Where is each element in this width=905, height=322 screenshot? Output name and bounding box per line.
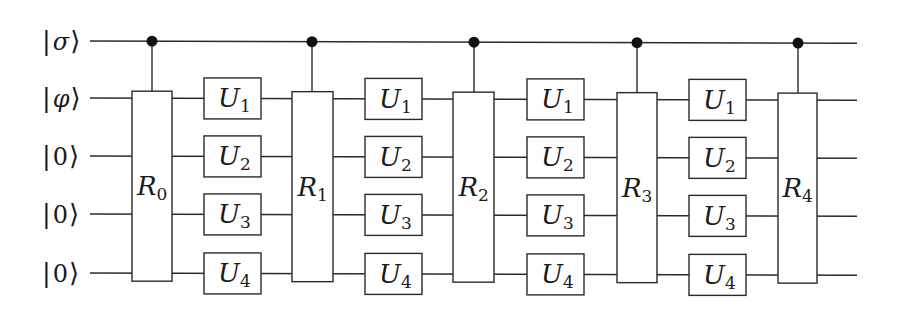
gate-subscript: 2 xyxy=(563,155,574,175)
qubit-label-2: |0⟩ xyxy=(42,141,79,171)
gate-name: U xyxy=(218,199,241,229)
gate-name: U xyxy=(541,84,564,114)
gate-subscript: 1 xyxy=(240,96,251,116)
ket-bar: | xyxy=(42,199,51,229)
gate-name: U xyxy=(541,142,564,172)
gate-subscript: 4 xyxy=(725,273,736,293)
gate-subscript: 1 xyxy=(401,97,412,117)
gate-subscript: 3 xyxy=(642,186,653,206)
gate-name: U xyxy=(379,200,402,230)
gate-subscript: 4 xyxy=(240,271,251,291)
gate-subscript: 1 xyxy=(725,98,736,118)
gate-name: U xyxy=(379,259,402,289)
gate-subscript: 3 xyxy=(401,213,412,233)
gate-subscript: 4 xyxy=(802,186,813,206)
ket-symbol: 0 xyxy=(53,201,68,229)
circuit-svg: |σ⟩|φ⟩|0⟩|0⟩|0⟩R0R1R2R3R4U1U2U3U4U1U2U3U… xyxy=(0,0,905,322)
gate-subscript: 2 xyxy=(401,155,412,175)
ket-bar: | xyxy=(42,26,51,56)
control-dot-icon xyxy=(632,37,643,48)
quantum-circuit-diagram: |σ⟩|φ⟩|0⟩|0⟩|0⟩R0R1R2R3R4U1U2U3U4U1U2U3U… xyxy=(0,0,905,322)
ket-bar: | xyxy=(42,141,51,171)
gate-name: U xyxy=(218,258,241,288)
ket-symbol: 0 xyxy=(53,143,68,171)
gate-name: U xyxy=(703,143,726,173)
gate-name: U xyxy=(218,141,241,171)
ket-bar: | xyxy=(42,83,51,113)
gate-subscript: 3 xyxy=(240,212,251,232)
gate-name: U xyxy=(703,85,726,115)
control-dot-icon xyxy=(307,36,318,47)
gate-name: U xyxy=(703,260,726,290)
ket-angle: ⟩ xyxy=(71,83,81,113)
gate-name: R xyxy=(458,172,479,202)
qubit-label-3: |0⟩ xyxy=(42,199,79,229)
gate-name: R xyxy=(621,173,642,203)
qubit-label-4: |0⟩ xyxy=(42,258,79,288)
gate-subscript: 1 xyxy=(317,185,328,205)
qubit-label-0: |σ⟩ xyxy=(42,26,80,56)
gate-name: U xyxy=(703,201,726,231)
gate-name: U xyxy=(379,142,402,172)
gate-subscript: 0 xyxy=(157,184,168,204)
ket-symbol: φ xyxy=(53,85,70,113)
gate-subscript: 2 xyxy=(478,185,489,205)
gate-subscript: 3 xyxy=(563,213,574,233)
control-dot-icon xyxy=(147,36,158,47)
gate-subscript: 2 xyxy=(240,154,251,174)
ket-angle: ⟩ xyxy=(69,141,79,171)
gate-name: R xyxy=(297,172,318,202)
gate-subscript: 3 xyxy=(725,214,736,234)
ket-angle: ⟩ xyxy=(69,258,79,288)
ket-bar: | xyxy=(42,258,51,288)
gate-subscript: 2 xyxy=(725,156,736,176)
ket-angle: ⟩ xyxy=(70,26,80,56)
ket-symbol: σ xyxy=(53,28,70,56)
gate-name: R xyxy=(136,171,157,201)
gate-name: U xyxy=(541,200,564,230)
gate-name: U xyxy=(218,83,241,113)
gate-name: U xyxy=(541,259,564,289)
qubit-label-1: |φ⟩ xyxy=(42,83,81,113)
control-dot-icon xyxy=(469,37,480,48)
gate-subscript: 1 xyxy=(563,97,574,117)
control-dot-icon xyxy=(793,38,804,49)
ket-symbol: 0 xyxy=(53,260,68,288)
gate-name: U xyxy=(379,84,402,114)
gate-subscript: 4 xyxy=(563,272,574,292)
gate-subscript: 4 xyxy=(401,272,412,292)
ket-angle: ⟩ xyxy=(69,199,79,229)
gate-name: R xyxy=(782,173,803,203)
